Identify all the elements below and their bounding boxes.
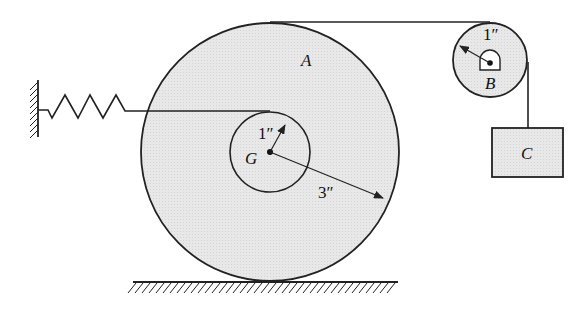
label-g: G	[245, 149, 257, 168]
label-a: A	[300, 51, 312, 70]
label-inner-radius: 1″	[258, 124, 274, 143]
label-pulley-radius: 1″	[483, 25, 499, 44]
label-c: C	[521, 144, 533, 163]
wall-support	[30, 80, 38, 138]
label-outer-radius: 3″	[318, 183, 334, 202]
mechanics-diagram: A G 1″ 3″ 1″ B C	[0, 0, 584, 312]
pulley-axle-bracket	[480, 50, 500, 70]
label-b: B	[485, 74, 496, 93]
ground	[128, 282, 398, 293]
